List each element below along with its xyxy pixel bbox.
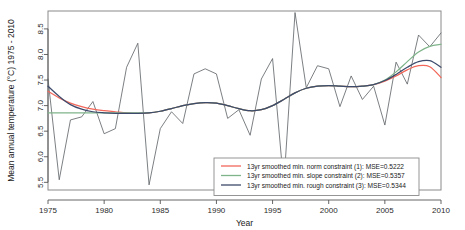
series-line-rough xyxy=(48,60,441,113)
y-tick-label: 8.5 xyxy=(37,23,46,35)
y-tick-label: 6.5 xyxy=(37,125,46,137)
y-tick-label: 5.5 xyxy=(37,176,46,188)
x-axis-title: Year xyxy=(236,218,253,228)
chart-container: 5.56.06.57.07.58.08.5 197519801985199019… xyxy=(0,0,465,230)
y-axis-ticks: 5.56.06.57.07.58.08.5 xyxy=(37,23,49,188)
x-tick-label: 2005 xyxy=(376,206,394,215)
x-tick-label: 1985 xyxy=(151,206,169,215)
chart-legend: 13yr smoothed min. norm constraint (1): … xyxy=(214,158,419,196)
series-line-norm xyxy=(48,65,441,113)
y-tick-label: 6.0 xyxy=(37,151,46,163)
x-tick-label: 1980 xyxy=(95,206,113,215)
y-tick-label: 7.0 xyxy=(37,100,46,112)
x-tick-label: 1975 xyxy=(39,206,57,215)
series-line-slope xyxy=(48,44,441,113)
x-tick-label: 2000 xyxy=(320,206,338,215)
x-tick-label: 2010 xyxy=(432,206,450,215)
x-tick-label: 1990 xyxy=(208,206,226,215)
y-axis-title: Mean annual temperature (°C) 1975 - 2010 xyxy=(6,19,16,182)
temperature-line-chart: 5.56.06.57.07.58.08.5 197519801985199019… xyxy=(0,0,465,230)
x-axis-ticks: 19751980198519901995200020052010 xyxy=(39,200,450,215)
legend-label-slope: 13yr smoothed min. slope constraint (2):… xyxy=(247,172,405,180)
y-tick-label: 7.5 xyxy=(37,74,46,86)
y-tick-label: 8.0 xyxy=(37,48,46,60)
x-tick-label: 1995 xyxy=(264,206,282,215)
legend-label-rough: 13yr smoothed min. rough constraint (3):… xyxy=(247,182,406,190)
legend-label-norm: 13yr smoothed min. norm constraint (1): … xyxy=(247,163,404,171)
